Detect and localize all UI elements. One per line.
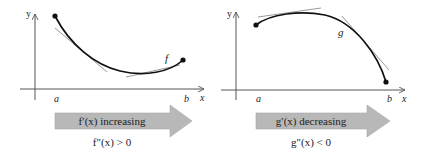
left-endpoint-a xyxy=(52,13,57,18)
right-endpoint-b xyxy=(383,79,388,84)
left-y-label: y xyxy=(26,8,31,19)
right-endpoint-a xyxy=(253,22,258,27)
left-endpoint-b xyxy=(180,57,185,62)
left-arrow-text: f′(x) increasing xyxy=(79,115,146,128)
right-caption: g″(x) < 0 xyxy=(291,136,332,149)
left-caption: f″(x) > 0 xyxy=(93,136,132,149)
right-tick-a: a xyxy=(256,93,261,104)
right-panel: y x a b g g′(x) decreasing g″(x) < 0 xyxy=(221,8,407,149)
diagram-canvas: y x a b f f′(x) increasing f″(x) > 0 y x… xyxy=(0,0,427,154)
left-tick-b: b xyxy=(184,93,189,104)
right-tick-b: b xyxy=(387,93,392,104)
left-panel: y x a b f f′(x) increasing f″(x) > 0 xyxy=(20,8,205,149)
left-x-label: x xyxy=(199,92,205,103)
right-function-label: g xyxy=(338,26,344,38)
right-curve-g xyxy=(256,13,386,82)
left-tick-a: a xyxy=(54,93,59,104)
left-function-label: f xyxy=(165,52,170,64)
right-arrow-text: g′(x) decreasing xyxy=(276,115,347,128)
right-x-label: x xyxy=(401,93,407,104)
right-y-label: y xyxy=(227,8,232,19)
